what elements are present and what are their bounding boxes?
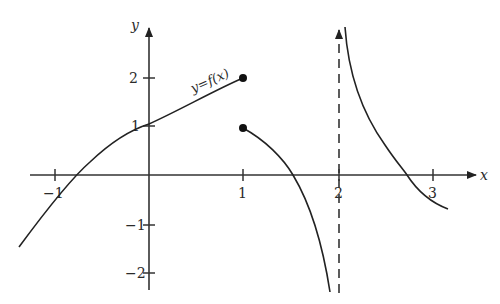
curve-branch-2: [243, 128, 330, 292]
y-tick-label: 2: [129, 70, 138, 86]
closed-endpoint-dot: [239, 74, 247, 82]
function-graph: x y −1 1 2 3 2 1 −1 −2 y=f(x): [0, 0, 500, 304]
x-axis-label: x: [480, 167, 488, 183]
closed-startpoint-dot: [239, 124, 247, 132]
x-tick-label: 1: [238, 185, 247, 201]
curve-label: y=f(x): [187, 66, 231, 97]
y-tick-label: −2: [125, 265, 146, 281]
y-axis-label: y: [130, 17, 140, 33]
y-tick-label: −1: [125, 217, 146, 233]
curve-branch-3: [345, 27, 448, 209]
